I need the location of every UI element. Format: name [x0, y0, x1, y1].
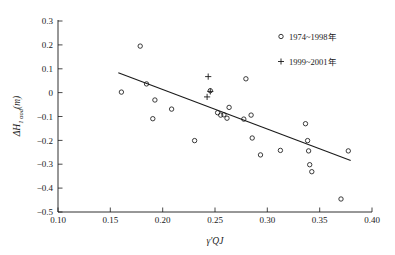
y-tick-label: 0.3: [42, 16, 54, 26]
x-tick-label: 0.15: [102, 215, 118, 225]
y-tick-label: 0.2: [42, 40, 53, 50]
x-tick-label: 0.35: [312, 215, 328, 225]
x-axis-title-text: γ′QJ: [207, 236, 225, 246]
y-tick-label: 0: [49, 88, 54, 98]
y-tick-label: −0.1: [37, 112, 53, 122]
y-axis-title-subscript: 1 αod: [17, 108, 24, 124]
y-axis-title-text: ΔH: [12, 123, 22, 138]
y-tick-label: 0.1: [42, 64, 53, 74]
y-tick-label: −0.3: [37, 159, 54, 169]
x-tick-label: 0.20: [155, 215, 171, 225]
scatter-plot-figure: 0.3 0.2 0.1 0 −0.1 −0.2 −0.3 −0.4 −0.5 0…: [0, 0, 395, 255]
x-axis-title: γ′QJ: [207, 236, 225, 246]
x-tick-label: 0.30: [259, 215, 275, 225]
x-tick-label: 0.40: [364, 215, 380, 225]
x-tick-label: 0.10: [50, 215, 66, 225]
legend-label-1999-2001: 1999~2001年: [289, 57, 337, 67]
legend-label-1974-1998: 1974~1998年: [289, 32, 337, 42]
y-tick-label: −0.2: [37, 136, 53, 146]
y-axis-title-unit: (m): [12, 96, 23, 109]
y-tick-label: −0.4: [37, 183, 54, 193]
chart-canvas: 0.3 0.2 0.1 0 −0.1 −0.2 −0.3 −0.4 −0.5 0…: [0, 0, 395, 255]
x-tick-label: 0.25: [207, 215, 223, 225]
